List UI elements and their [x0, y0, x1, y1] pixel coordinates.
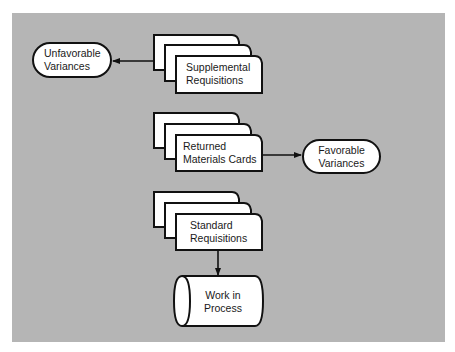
work-in-process-label: Work in Process	[190, 289, 256, 315]
label-line: Variances	[44, 60, 101, 73]
label-line: Materials Cards	[183, 153, 257, 166]
label-line: Supplemental	[186, 61, 250, 74]
label-line: Variances	[303, 157, 380, 170]
standard-requisitions-label: Standard Requisitions	[190, 219, 247, 245]
favorable-variances-label: Favorable Variances	[303, 144, 380, 170]
label-line: Returned	[183, 140, 257, 153]
label-line: Requisitions	[186, 74, 250, 87]
label-line: Process	[190, 302, 256, 315]
label-line: Standard	[190, 219, 247, 232]
label-line: Unfavorable	[44, 47, 101, 60]
label-line: Favorable	[303, 144, 380, 157]
returned-materials-cards-label: Returned Materials Cards	[183, 140, 257, 166]
flowchart-diagram: Supplemental Requisitions Unfavorable Va…	[0, 0, 455, 352]
label-line: Work in	[190, 289, 256, 302]
supplemental-requisitions-label: Supplemental Requisitions	[186, 61, 250, 87]
unfavorable-variances-label: Unfavorable Variances	[44, 47, 101, 73]
label-line: Requisitions	[190, 232, 247, 245]
